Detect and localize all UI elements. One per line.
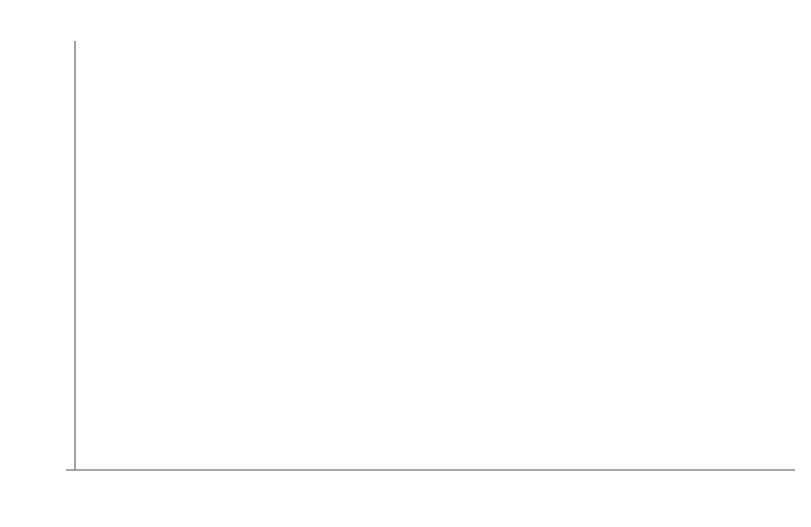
axis-lines [66,41,795,470]
plot-area [0,0,811,527]
line-chart [0,0,811,527]
